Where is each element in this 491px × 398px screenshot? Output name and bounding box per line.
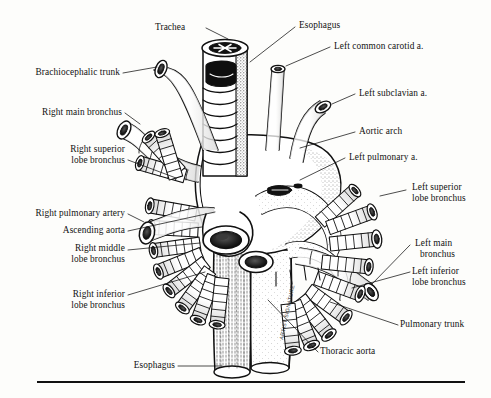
label-right-middle-lobe-bronchus-line1: Right middle xyxy=(0,243,125,254)
label-left-superior-lobe-bronchus-line1: Left superior xyxy=(412,182,462,193)
label-left-pulmonary-artery: Left pulmonary a. xyxy=(349,152,418,163)
label-esophagus-top: Esophagus xyxy=(299,20,340,31)
label-trachea: Trachea xyxy=(155,22,185,33)
pulmonary-trunk-stump-shape xyxy=(239,252,273,273)
label-left-inferior-lobe-bronchus-line2: lobe bronchus xyxy=(412,277,466,288)
label-right-main-bronchus: Right main bronchus xyxy=(0,107,122,118)
label-right-superior-lobe-bronchus-line1: Right superior xyxy=(0,144,125,155)
label-esophagus-bottom: Esophagus xyxy=(55,360,175,371)
label-left-common-carotid: Left common carotid a. xyxy=(334,41,423,52)
label-right-middle-lobe-bronchus-line2: lobe bronchus xyxy=(0,254,125,265)
label-aortic-arch: Aortic arch xyxy=(359,126,402,137)
label-left-main-bronchus-line2: bronchus xyxy=(420,249,455,260)
label-right-pulmonary-artery: Right pulmonary artery xyxy=(0,208,125,219)
label-left-superior-lobe-bronchus-line2: lobe bronchus xyxy=(412,193,466,204)
label-right-inferior-lobe-bronchus-line1: Right inferior xyxy=(0,289,125,300)
label-right-superior-lobe-bronchus-line2: lobe bronchus xyxy=(0,155,125,166)
label-right-inferior-lobe-bronchus-line2: lobe bronchus xyxy=(0,300,125,311)
label-brachiocephalic-trunk: Brachiocephalic trunk xyxy=(0,67,120,78)
trachea-shape xyxy=(202,40,248,177)
label-thoracic-aorta: Thoracic aorta xyxy=(320,346,375,357)
label-left-inferior-lobe-bronchus-line1: Left inferior xyxy=(412,266,459,277)
label-pulmonary-trunk: Pulmonary trunk xyxy=(400,319,464,330)
ascending-aorta-shape xyxy=(203,212,253,256)
label-left-subclavian: Left subclavian a. xyxy=(359,88,427,99)
label-ascending-aorta: Ascending aorta xyxy=(0,225,125,236)
label-left-main-bronchus-line1: Left main xyxy=(415,238,452,249)
